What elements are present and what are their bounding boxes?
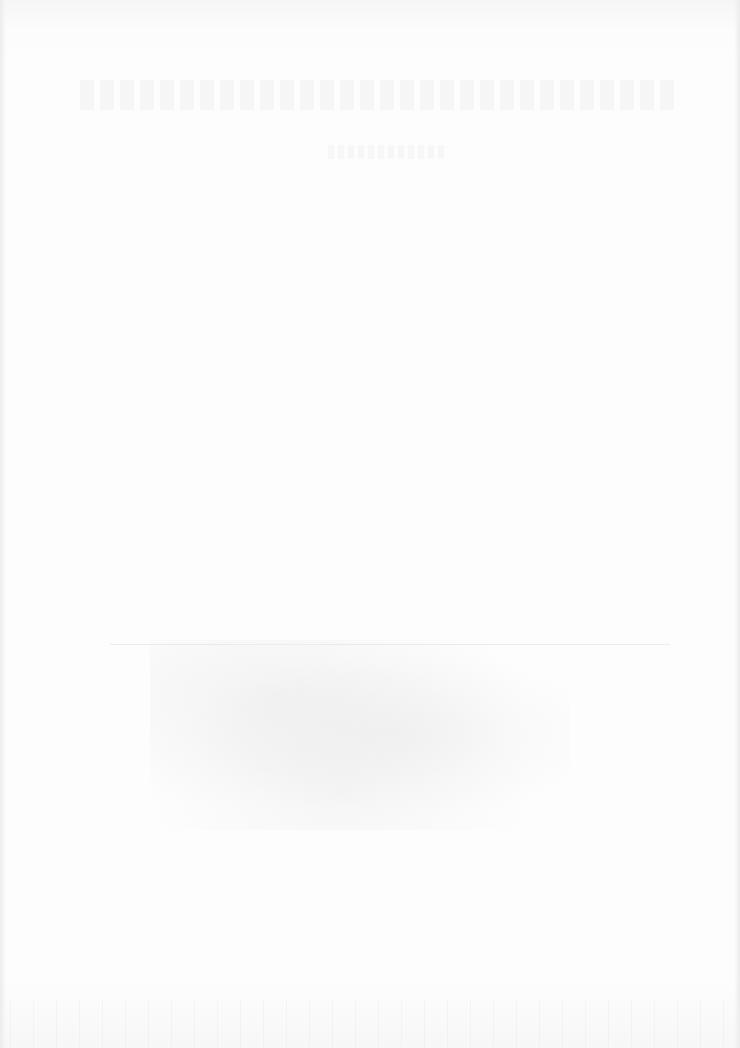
bleed-through-figure	[150, 640, 570, 830]
page-edge-left	[0, 0, 6, 1048]
bleed-through-subtitle	[328, 145, 448, 159]
scanned-page	[0, 0, 740, 1048]
bleed-through-bottom-marks	[10, 1000, 730, 1048]
page-edge-right	[734, 0, 740, 1048]
bleed-through-title	[80, 80, 680, 110]
